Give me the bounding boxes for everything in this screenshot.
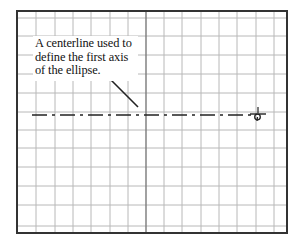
callout-line-2: define the first axis xyxy=(35,51,138,65)
callout-annotation: A centerline used to define the first ax… xyxy=(33,36,138,81)
callout-line-1: A centerline used to xyxy=(35,37,138,51)
callout-line-3: of the ellipse. xyxy=(35,64,138,78)
crosshair-pick-icon xyxy=(250,107,266,121)
